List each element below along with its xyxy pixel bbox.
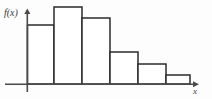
histogram-chart: f(x) x [0,0,212,99]
histogram-figure: f(x) x [0,0,212,99]
histogram-bar-3 [82,18,110,84]
up-arrow-icon [24,9,30,15]
histogram-bar-4 [110,52,138,84]
histogram-bars [28,7,191,84]
histogram-bar-5 [138,64,166,84]
histogram-bar-1 [28,25,55,84]
y-axis-label: f(x) [4,7,19,19]
histogram-bar-2 [54,7,82,84]
histogram-bar-6 [166,75,190,84]
x-axis-label: x [192,86,197,96]
